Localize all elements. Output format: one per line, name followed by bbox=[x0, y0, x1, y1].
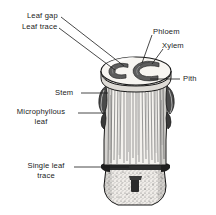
label-microphyllous-leaf-line2: leaf bbox=[8, 117, 74, 126]
botany-diagram-figure: Leaf gap Leaf trace Phloem Xylem Pith St… bbox=[0, 0, 216, 215]
leader-leaf-gap bbox=[61, 17, 124, 66]
stem-base bbox=[104, 168, 166, 205]
label-xylem: Xylem bbox=[162, 41, 184, 50]
label-leaf-gap: Leaf gap bbox=[27, 11, 58, 20]
label-stem: Stem bbox=[55, 88, 73, 97]
label-pith: Pith bbox=[183, 74, 197, 83]
label-single-leaf-trace-line2: trace bbox=[20, 171, 72, 180]
leader-leaf-trace bbox=[59, 28, 115, 70]
label-phloem: Phloem bbox=[153, 27, 180, 36]
label-single-leaf-trace-line1: Single leaf bbox=[20, 161, 72, 170]
label-microphyllous-leaf-line1: Microphyllous bbox=[8, 107, 74, 116]
stem-cross-section bbox=[101, 55, 171, 92]
leaf-base-upper-left bbox=[99, 86, 107, 114]
single-leaf-trace-mark bbox=[131, 179, 139, 192]
label-leaf-trace: Leaf trace bbox=[22, 22, 57, 31]
leaf-base-upper-right bbox=[166, 86, 174, 114]
